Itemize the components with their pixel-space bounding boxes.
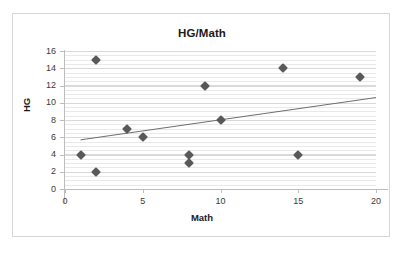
data-point-marker <box>355 72 365 82</box>
data-point-marker <box>278 63 288 73</box>
x-axis-line <box>65 189 388 190</box>
data-point-marker <box>184 158 194 168</box>
data-point-marker <box>293 150 303 160</box>
y-axis-tick-label: 8 <box>36 116 56 125</box>
x-axis-tick-label: 10 <box>209 196 233 206</box>
data-point-marker <box>138 132 148 142</box>
chart-title: HG/Math <box>13 27 391 39</box>
x-axis-tick-mark <box>376 189 377 193</box>
x-axis-tick-label: 0 <box>53 196 77 206</box>
y-axis-tick-label: 12 <box>36 81 56 90</box>
data-point-marker <box>76 150 86 160</box>
x-axis-tick-mark <box>221 189 222 193</box>
chart-container: HG/Math HG Math 0246810121416 05101520 <box>12 13 390 237</box>
y-axis-tick-label: 16 <box>36 47 56 56</box>
data-point-marker <box>91 55 101 65</box>
data-point-marker <box>200 81 210 91</box>
x-axis-tick-label: 20 <box>364 196 388 206</box>
x-axis-tick-mark <box>298 189 299 193</box>
y-axis-tick-label: 6 <box>36 133 56 142</box>
y-axis-tick-label: 10 <box>36 98 56 107</box>
y-axis-tick-label: 2 <box>36 167 56 176</box>
data-point-marker <box>216 115 226 125</box>
y-axis-tick-label: 0 <box>36 185 56 194</box>
plot-area <box>65 51 376 189</box>
x-axis-title: Math <box>13 212 391 223</box>
x-axis-tick-label: 15 <box>286 196 310 206</box>
y-axis-tick-label: 4 <box>36 150 56 159</box>
x-axis-tick-label: 5 <box>131 196 155 206</box>
y-axis-tick-label: 14 <box>36 64 56 73</box>
x-axis-tick-mark <box>65 189 66 193</box>
x-axis-tick-mark <box>143 189 144 193</box>
data-point-marker <box>91 167 101 177</box>
data-point-marker <box>122 124 132 134</box>
y-axis-title: HG <box>21 98 32 112</box>
